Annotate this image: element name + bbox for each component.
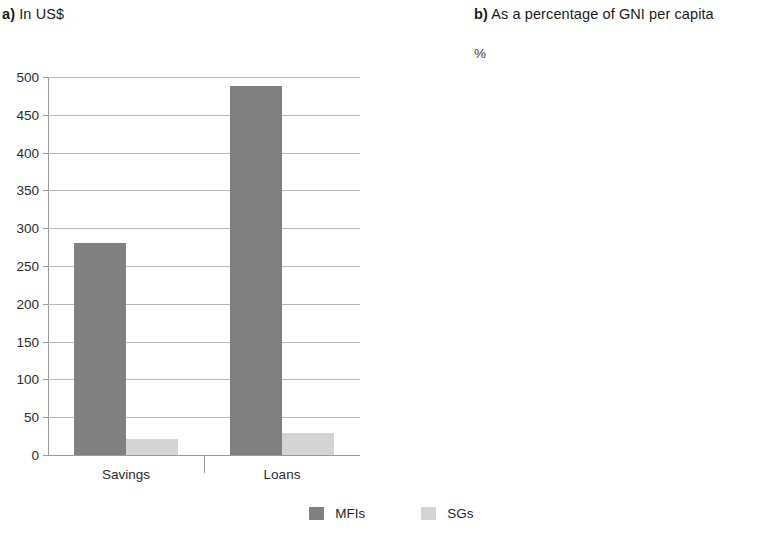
legend-label-mfis: MFIs — [335, 506, 365, 521]
y-axis-tick — [43, 190, 48, 191]
y-axis-tick-label: 300 — [16, 221, 39, 236]
figure-two-bar-charts: a) In US$ 500450400350300250200150100500… — [0, 0, 783, 533]
y-axis-tick — [43, 115, 48, 116]
bar-savings-mfis — [74, 243, 126, 455]
panel-b-title-text: As a percentage of GNI per capita — [491, 6, 714, 22]
y-axis-tick — [43, 153, 48, 154]
y-axis-tick — [43, 417, 48, 418]
y-axis-tick — [43, 455, 48, 456]
chart-panel-b: b) As a percentage of GNI per capita % 1… — [440, 0, 783, 500]
gridline — [48, 228, 360, 229]
panel-a-plot-area: 500450400350300250200150100500SavingsLoa… — [48, 77, 360, 455]
panel-a-title: a) In US$ — [2, 6, 64, 22]
bar-loans-mfis — [230, 86, 282, 455]
panel-b-title: b) As a percentage of GNI per capita — [474, 6, 714, 22]
gridline — [48, 153, 360, 154]
y-axis-tick — [43, 228, 48, 229]
gridline — [48, 115, 360, 116]
category-label-loans: Loans — [264, 467, 301, 482]
y-axis-tick-label: 350 — [16, 183, 39, 198]
y-axis-tick-label: 250 — [16, 259, 39, 274]
panel-b-unit-label: % — [474, 46, 486, 61]
legend-swatch-mfis — [309, 507, 324, 520]
bar-savings-sgs — [126, 439, 178, 455]
y-axis-tick — [43, 266, 48, 267]
legend-label-sgs: SGs — [447, 506, 473, 521]
chart-legend: MFIsSGs — [0, 506, 783, 521]
legend-item-mfis: MFIs — [309, 506, 365, 521]
panel-a-title-text: In US$ — [19, 6, 64, 22]
y-axis-tick — [43, 379, 48, 380]
bar-loans-sgs — [282, 433, 334, 455]
chart-panel-a: a) In US$ 500450400350300250200150100500… — [0, 0, 400, 500]
y-axis-tick-label: 0 — [31, 448, 39, 463]
y-axis-tick-label: 150 — [16, 334, 39, 349]
panel-a-prefix: a) — [2, 6, 15, 22]
y-axis-tick-label: 100 — [16, 372, 39, 387]
panel-b-prefix: b) — [474, 6, 488, 22]
gridline — [48, 190, 360, 191]
gridline — [48, 77, 360, 78]
legend-swatch-sgs — [421, 507, 436, 520]
y-axis-tick — [43, 304, 48, 305]
legend-item-sgs: SGs — [421, 506, 473, 521]
y-axis-tick-label: 450 — [16, 107, 39, 122]
y-axis-tick-label: 400 — [16, 145, 39, 160]
y-axis-tick-label: 500 — [16, 70, 39, 85]
y-axis-tick-label: 50 — [24, 410, 39, 425]
y-axis-tick — [43, 77, 48, 78]
y-axis-tick-label: 200 — [16, 296, 39, 311]
y-axis-tick — [43, 342, 48, 343]
category-separator — [204, 455, 205, 473]
category-label-savings: Savings — [102, 467, 150, 482]
